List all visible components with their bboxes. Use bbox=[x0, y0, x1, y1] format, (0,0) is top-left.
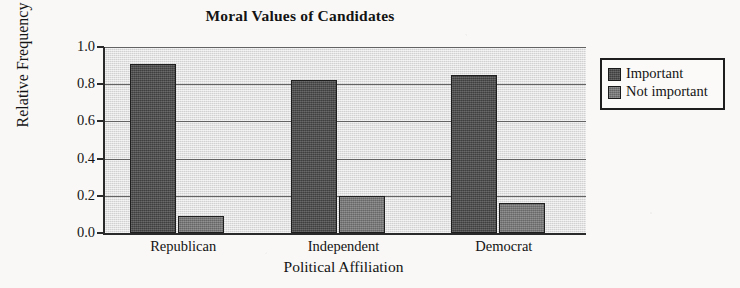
bar-texture bbox=[179, 217, 223, 232]
y-tick-mark bbox=[97, 83, 104, 85]
y-tick-label: 0.2 bbox=[55, 187, 95, 204]
x-tick-label-republican: Republican bbox=[103, 238, 263, 255]
legend-swatch-texture bbox=[609, 87, 620, 98]
gridline bbox=[105, 121, 586, 122]
gridline bbox=[105, 84, 586, 85]
bar-texture bbox=[452, 76, 496, 232]
plot-area bbox=[103, 47, 586, 235]
gridline bbox=[105, 159, 586, 160]
y-tick-mark bbox=[97, 46, 104, 48]
y-tick-label: 1.0 bbox=[55, 38, 95, 55]
y-axis-label: Relative Frequency bbox=[14, 0, 32, 160]
y-tick-label: 0.4 bbox=[55, 150, 95, 167]
chart-title: Moral Values of Candidates bbox=[0, 7, 600, 25]
bar-republican-not-important bbox=[178, 216, 224, 233]
bar-texture bbox=[131, 65, 175, 232]
legend-item-important: Important bbox=[608, 65, 717, 82]
bar-democrat-not-important bbox=[499, 203, 545, 233]
legend-swatch-not-important bbox=[608, 86, 621, 99]
bar-independent-not-important bbox=[339, 196, 385, 233]
gridline bbox=[105, 47, 586, 48]
bar-texture bbox=[500, 204, 544, 232]
chart-page: Moral Values of Candidates Relative Freq… bbox=[0, 0, 740, 288]
y-tick-label: 0.8 bbox=[55, 75, 95, 92]
x-tick-label-democrat: Democrat bbox=[424, 238, 584, 255]
bar-independent-important bbox=[291, 80, 337, 233]
x-tick-label-independent: Independent bbox=[263, 238, 423, 255]
bar-texture bbox=[292, 81, 336, 232]
legend-label: Not important bbox=[626, 83, 708, 100]
y-tick-label: 0.6 bbox=[55, 112, 95, 129]
y-tick-mark bbox=[97, 120, 104, 122]
bar-republican-important bbox=[130, 64, 176, 233]
x-axis-label: Political Affiliation bbox=[103, 258, 584, 276]
legend-item-not-important: Not important bbox=[608, 83, 717, 100]
legend-label: Important bbox=[626, 65, 683, 82]
y-tick-mark bbox=[97, 232, 104, 234]
legend-swatch-texture bbox=[609, 69, 620, 80]
y-tick-label: 0.0 bbox=[55, 224, 95, 241]
chart-legend: ImportantNot important bbox=[600, 58, 725, 110]
y-tick-mark bbox=[97, 195, 104, 197]
bar-democrat-important bbox=[451, 75, 497, 233]
bar-texture bbox=[340, 197, 384, 232]
legend-swatch-important bbox=[608, 68, 621, 81]
y-tick-mark bbox=[97, 158, 104, 160]
